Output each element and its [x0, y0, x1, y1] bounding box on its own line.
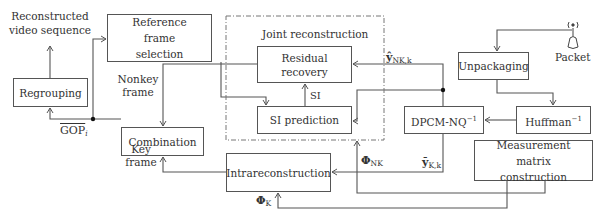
phi-nk-symbol: Φ	[361, 154, 371, 167]
reference-frame-selection-label: Reference frame selection	[122, 14, 197, 62]
joint-reconstruction-label: Joint reconstruction	[262, 28, 368, 41]
phi-nk-label: ΦNK	[361, 154, 383, 168]
residual-recovery-label: Residual recovery	[276, 51, 333, 79]
residual-recovery-block: Residual recovery	[257, 46, 352, 83]
measurement-matrix-block: Measurement matrix construction	[474, 140, 593, 181]
key-frame-label: Key frame	[124, 143, 158, 169]
packet-label: Packet	[555, 51, 591, 64]
phi-nk-subscript: NK	[371, 159, 383, 168]
reconstructed-video-label: Reconstructed video sequence	[8, 9, 92, 37]
gop-subscript: i	[85, 129, 87, 138]
phi-k-label: ΦK	[256, 194, 271, 208]
y-nk-label: ŷNK,k	[386, 51, 412, 65]
dpcm-nq-inverse-label: DPCM-NQ−1	[411, 112, 477, 129]
phi-k-symbol: Φ	[256, 194, 266, 207]
huffman-superscript: −1	[572, 115, 582, 123]
phi-k-subscript: K	[266, 199, 272, 208]
si-prediction-label: SI prediction	[270, 113, 339, 127]
unpackaging-block: Unpackaging	[458, 52, 529, 80]
antenna-icon	[568, 22, 578, 49]
y-nk-subscript: NK,k	[392, 56, 411, 65]
dpcm-text: DPCM-NQ	[411, 116, 467, 128]
gop-text: GOP	[60, 124, 85, 137]
unpackaging-label: Unpackaging	[458, 59, 529, 73]
diagram-canvas: Joint reconstruction Regrouping Referenc…	[0, 0, 598, 218]
y-k-label: ȳK,k	[422, 156, 441, 170]
intrareconstruction-label: Intrareconstruction	[226, 166, 331, 180]
gop-label: GOPi	[60, 124, 88, 138]
y-k-subscript: K,k	[428, 161, 441, 170]
junction-dot	[91, 117, 95, 121]
dpcm-superscript: −1	[467, 115, 477, 123]
measurement-matrix-label: Measurement matrix construction	[491, 137, 576, 185]
huffman-text: Huffman	[525, 116, 571, 128]
nonkey-frame-label: Nonkey frame	[116, 73, 160, 99]
reference-frame-selection-block: Reference frame selection	[107, 14, 212, 62]
intrareconstruction-block: Intrareconstruction	[226, 153, 331, 192]
regrouping-block: Regrouping	[13, 78, 88, 107]
si-prediction-block: SI prediction	[257, 106, 352, 134]
huffman-inverse-block: Huffman−1	[516, 106, 591, 134]
huffman-inverse-label: Huffman−1	[525, 112, 582, 129]
regrouping-label: Regrouping	[19, 86, 82, 100]
si-label: SI	[310, 90, 321, 101]
junction-dot	[441, 88, 445, 92]
dpcm-nq-inverse-block: DPCM-NQ−1	[404, 106, 484, 134]
